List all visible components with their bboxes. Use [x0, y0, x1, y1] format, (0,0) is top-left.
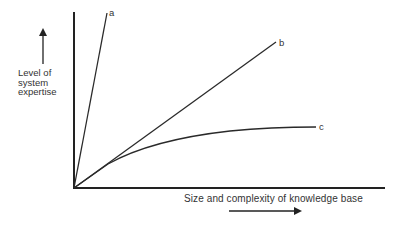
y-axis-label: Level of system expertise — [18, 68, 57, 97]
series-label-a: a — [109, 8, 114, 18]
series-label-b: b — [279, 38, 284, 48]
series-line-a — [74, 13, 107, 188]
x-axis-label: Size and complexity of knowledge base — [184, 193, 363, 204]
y-axis-label-line-3: expertise — [18, 87, 57, 97]
series-line-c — [74, 127, 316, 188]
series-label-c: c — [319, 122, 324, 132]
